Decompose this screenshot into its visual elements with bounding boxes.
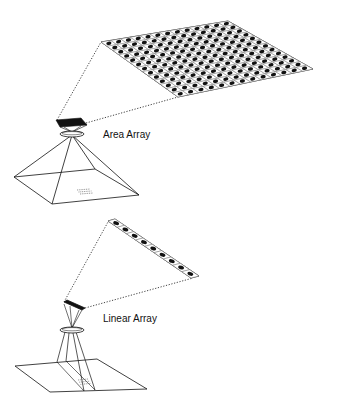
imaging-sensor-diagram: Area Array Linear Array <box>0 0 339 408</box>
lens-icon <box>60 131 84 137</box>
projection-line <box>85 278 193 308</box>
lens-icon <box>60 327 84 333</box>
document-imprint <box>78 379 88 380</box>
field-of-view-edge <box>14 135 72 177</box>
field-of-view-base <box>14 169 139 204</box>
light-ray <box>72 310 79 328</box>
light-ray <box>72 310 82 328</box>
linear-sensor-chip <box>64 300 85 310</box>
document-imprint <box>79 381 89 382</box>
diagram-drawing <box>0 0 339 408</box>
field-of-view-edge <box>52 135 72 204</box>
scan-ray <box>73 333 84 391</box>
linear-array-illustration <box>15 219 199 392</box>
area-sensor-chip <box>56 118 87 127</box>
scan-ray <box>66 333 69 361</box>
projection-line <box>86 97 178 123</box>
document-imprint <box>80 193 93 194</box>
document-imprint <box>79 191 92 192</box>
projection-line <box>57 42 101 120</box>
scan-band-edge <box>57 362 84 391</box>
scan-band-edge <box>66 361 95 390</box>
field-of-view-edge <box>72 135 139 195</box>
scan-ray <box>57 332 65 362</box>
linear-array-label: Linear Array <box>103 314 157 324</box>
area-array-label: Area Array <box>103 130 150 140</box>
area-array-illustration <box>14 21 313 204</box>
document-imprint <box>77 189 90 190</box>
projection-line <box>64 222 108 302</box>
